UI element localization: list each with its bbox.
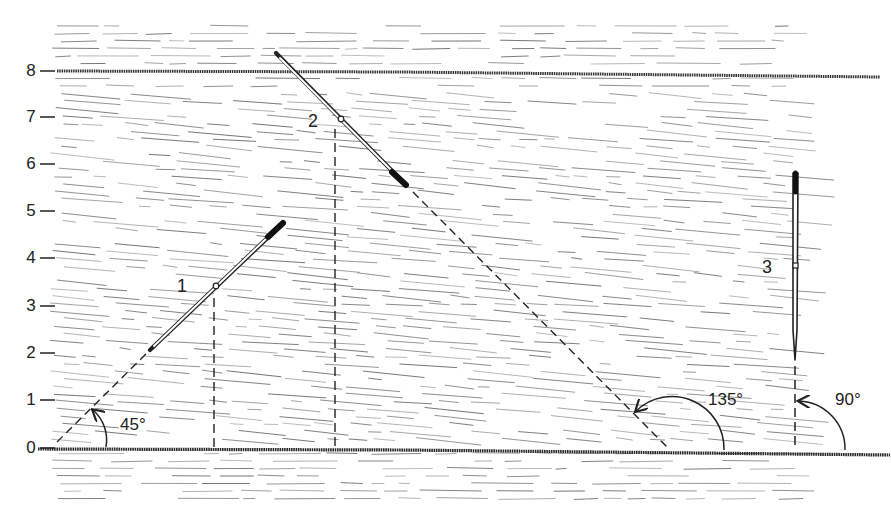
angle-arc-45 bbox=[93, 410, 107, 447]
angle-label-45: 45° bbox=[120, 416, 146, 433]
needle-2 bbox=[276, 53, 724, 450]
needle-3-midpoint-marker bbox=[793, 263, 798, 268]
y-axis-label-8: 8 bbox=[24, 62, 38, 79]
y-axis-label-1: 1 bbox=[24, 391, 38, 408]
wood-grain-texture bbox=[50, 25, 834, 499]
needle-2-eye-end bbox=[392, 172, 406, 185]
needle-2-shaft-fill bbox=[280, 58, 392, 171]
angle-label-90: 90° bbox=[835, 391, 861, 408]
needle-2-midpoint-marker bbox=[338, 116, 344, 122]
y-axis-label-2: 2 bbox=[24, 344, 38, 361]
needle-1-eye-end bbox=[268, 223, 283, 237]
angle-label-135: 135° bbox=[708, 391, 743, 408]
y-axis-label-7: 7 bbox=[24, 108, 38, 125]
needle-1-midpoint-marker bbox=[213, 283, 219, 289]
y-axis-label-0: 0 bbox=[24, 439, 38, 456]
needle-3-label: 3 bbox=[762, 258, 772, 276]
needle-1-label: 1 bbox=[177, 277, 187, 295]
y-axis-label-6: 6 bbox=[24, 155, 38, 172]
y-axis-label-5: 5 bbox=[24, 202, 38, 219]
y-axis-label-4: 4 bbox=[24, 249, 38, 266]
diagram-canvas bbox=[0, 0, 891, 524]
y-axis-ticks bbox=[40, 71, 55, 448]
bottom-surface-line-0 bbox=[38, 449, 890, 455]
top-surface-line-8 bbox=[57, 71, 880, 77]
needle-angle-diagram: 012345678 1 2 3 45° 135° 90° bbox=[0, 0, 891, 524]
needle-2-label: 2 bbox=[308, 112, 318, 130]
y-axis-label-3: 3 bbox=[24, 297, 38, 314]
